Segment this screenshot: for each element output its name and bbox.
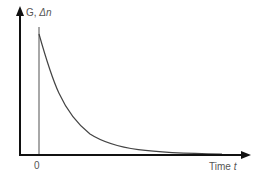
- x-axis-label-italic: t: [234, 161, 237, 172]
- y-axis-label-italic: Δn: [39, 7, 51, 18]
- chart-canvas: [0, 0, 261, 183]
- chart: G, Δn 0 Time t: [0, 0, 261, 183]
- decay-curve: [39, 34, 222, 154]
- x-axis-arrow-icon: [241, 151, 251, 159]
- x-axis-label-text: Time: [209, 161, 234, 172]
- y-axis-label: G, Δn: [26, 7, 52, 18]
- y-axis-label-text: G,: [26, 7, 39, 18]
- y-axis-arrow-icon: [16, 6, 24, 16]
- origin-tick-label: 0: [34, 160, 40, 171]
- x-axis-label: Time t: [209, 161, 236, 172]
